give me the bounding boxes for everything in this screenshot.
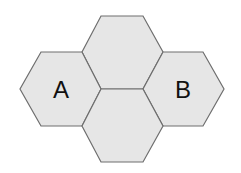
hexagon-diagram: A B — [0, 0, 241, 173]
label-a: A — [53, 76, 69, 103]
label-b: B — [175, 76, 191, 103]
